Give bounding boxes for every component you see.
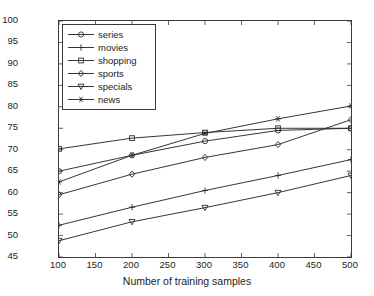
x-tick-label: 150 — [75, 260, 115, 270]
y-tick-label: 55 — [0, 208, 18, 218]
star-marker-icon — [66, 93, 96, 106]
x-tick-label: 450 — [294, 260, 334, 270]
y-tick-label: 95 — [0, 36, 18, 46]
x-tick-label: 250 — [148, 260, 188, 270]
data-point-movies — [202, 187, 208, 193]
legend-item-specials: specials — [63, 80, 155, 93]
diamond-marker-icon — [66, 67, 96, 80]
legend-item-series: series — [63, 28, 155, 41]
legend-item-movies: movies — [63, 41, 155, 54]
legend-item-news: news — [63, 93, 155, 106]
y-tick-label: 90 — [0, 58, 18, 68]
x-tick-label: 350 — [221, 260, 261, 270]
y-tick-label: 70 — [0, 144, 18, 154]
data-point-movies — [275, 172, 281, 178]
legend-label: sports — [98, 67, 124, 80]
legend-label: shopping — [98, 54, 137, 67]
y-tick-label: 65 — [0, 165, 18, 175]
x-tick-label: 300 — [184, 260, 224, 270]
x-tick-label: 200 — [111, 260, 151, 270]
y-tick-label: 50 — [0, 230, 18, 240]
legend-label: specials — [98, 80, 132, 93]
x-tick-label: 400 — [257, 260, 297, 270]
data-point-news — [275, 116, 281, 121]
y-tick-label: 60 — [0, 187, 18, 197]
y-tick-label: 80 — [0, 101, 18, 111]
y-tick-label: 85 — [0, 79, 18, 89]
data-point-news — [348, 103, 351, 108]
data-point-movies — [348, 156, 351, 162]
data-point-movies — [59, 222, 62, 228]
triangle-down-marker-icon — [66, 80, 96, 93]
legend-label: series — [98, 28, 123, 41]
square-marker-icon — [66, 54, 96, 67]
x-tick-label: 500 — [330, 260, 370, 270]
legend-item-shopping: shopping — [63, 54, 155, 67]
plus-marker-icon — [66, 41, 96, 54]
x-axis-title: Number of training samples — [0, 275, 374, 287]
series-line-specials — [59, 175, 351, 240]
legend-item-sports: sports — [63, 67, 155, 80]
y-tick-label: 45 — [0, 251, 18, 261]
series-line-sports — [59, 120, 351, 195]
y-tick-label: 75 — [0, 122, 18, 132]
legend: seriesmoviesshoppingsportsspecialsnews — [62, 24, 156, 110]
x-tick-label: 100 — [38, 260, 78, 270]
legend-label: movies — [98, 41, 128, 54]
data-point-news — [59, 179, 62, 184]
y-tick-label: 100 — [0, 15, 18, 25]
figure: 4550556065707580859095100 10015020025030… — [0, 0, 374, 296]
circle-marker-icon — [66, 28, 96, 41]
data-point-movies — [129, 204, 135, 210]
legend-label: news — [98, 93, 120, 106]
